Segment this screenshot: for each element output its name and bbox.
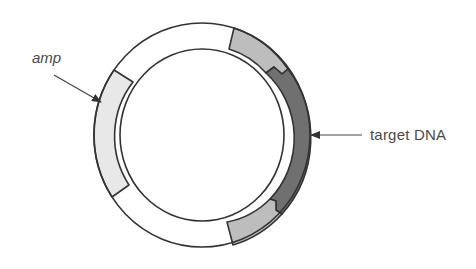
amp-arrow-icon <box>54 75 101 102</box>
inner-circle-outline <box>120 49 284 221</box>
plasmid-diagram: amp target DNA <box>0 0 476 269</box>
target-dna-label: target DNA <box>370 127 446 142</box>
amp-label: amp <box>32 50 61 65</box>
